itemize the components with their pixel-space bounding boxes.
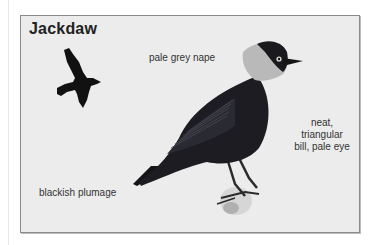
label-nape: pale grey nape [149, 52, 215, 64]
label-plumage: blackish plumage [39, 187, 116, 199]
species-panel: Jackdaw [20, 15, 360, 233]
label-bill-eye: neat, triangular bill, pale eye [289, 117, 355, 153]
page-margin-line [8, 0, 9, 245]
label-bill-line1: neat, triangular [289, 117, 355, 141]
flying-bird-icon [57, 48, 101, 108]
perched-bird-icon [133, 41, 303, 215]
label-bill-line2: bill, pale eye [289, 141, 355, 153]
